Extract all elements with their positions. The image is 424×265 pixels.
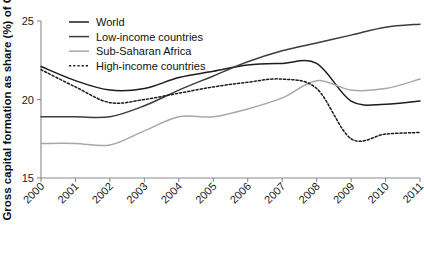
x-tick-label: 2006 — [227, 180, 253, 206]
y-tick-label: 25 — [22, 15, 34, 27]
x-tick-label: 2001 — [55, 180, 81, 206]
legend-label: Sub-Saharan Africa — [96, 45, 192, 57]
x-tick-label: 2011 — [400, 180, 424, 205]
y-axis-title-text: Gross capital formation as share (%) of … — [1, 0, 13, 221]
y-tick-label: 20 — [22, 94, 34, 106]
y-axis-title: Gross capital formation as share (%) of … — [1, 0, 13, 221]
y-axis-ticks: 152025 — [22, 15, 41, 184]
chart-container: 152025 200020012002200320042005200620072… — [0, 0, 424, 265]
series-line-sub-saharan-africa — [41, 79, 420, 146]
x-tick-label: 2004 — [158, 180, 184, 206]
legend-label: World — [96, 16, 125, 28]
x-tick-label: 2008 — [296, 180, 322, 206]
x-tick-label: 2009 — [331, 180, 357, 206]
x-tick-label: 2002 — [90, 180, 116, 206]
x-tick-label: 2005 — [193, 180, 219, 206]
x-tick-label: 2010 — [365, 180, 391, 206]
legend-label: High-income countries — [96, 60, 206, 72]
x-tick-label: 2007 — [262, 180, 288, 206]
x-tick-label: 2003 — [124, 180, 150, 206]
line-chart: 152025 200020012002200320042005200620072… — [0, 0, 424, 265]
legend-label: Low-income countries — [96, 31, 203, 43]
y-tick-label: 15 — [22, 172, 34, 184]
x-axis-ticks: 2000200120022003200420052006200720082009… — [21, 178, 424, 206]
chart-legend: WorldLow-income countriesSub-Saharan Afr… — [69, 16, 206, 72]
